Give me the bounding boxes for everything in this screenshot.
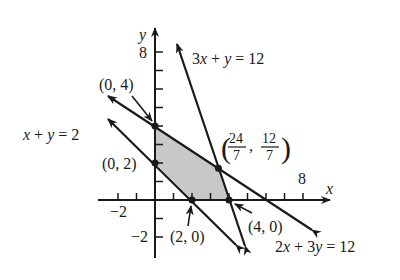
pointer-arrow-4-0 [235,204,252,213]
feasible-region-diagram: y x −2 8 8 −2 3x + y = 12 x + y = 2 2x +… [0,0,400,280]
x-axis-label: x [325,180,333,197]
x-tick-label-neg2: −2 [110,203,127,220]
point-label-4-0: (4, 0) [248,218,283,236]
equation-label-x-plus-y: x + y = 2 [22,126,79,144]
y-tick-label-neg2: −2 [131,228,148,245]
point-label-2-0: (2, 0) [170,228,205,246]
y-axis-label: y [137,26,147,44]
point-label-0-4: (0, 4) [99,76,134,94]
y-tick-label-8: 8 [139,44,147,61]
equation-label-3x-plus-y: 3x + y = 12 [192,50,264,68]
svg-text:24: 24 [229,131,243,146]
svg-text:12: 12 [262,131,276,146]
svg-text:): ) [281,131,291,165]
svg-text:,: , [249,137,253,154]
svg-text:7: 7 [266,148,273,163]
pointer-arrow-2-0 [188,206,191,226]
y-axis-ticks [155,52,163,237]
x-tick-label-8: 8 [298,170,306,187]
x-axis-ticks [118,193,303,200]
point-label-0-2: (0, 2) [102,155,137,173]
point-label-intersection: ( 24 7 , 12 7 ) [221,131,291,165]
svg-text:7: 7 [233,148,240,163]
equation-label-2x-plus-3y: 2x + 3y = 12 [275,238,355,256]
